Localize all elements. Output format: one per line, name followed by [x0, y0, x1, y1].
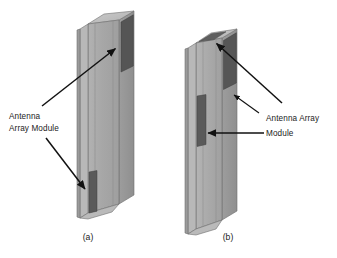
diagram-a-antenna-patch-bottom — [89, 171, 97, 213]
figure-canvas: (a) Antenna Array Module — [0, 0, 337, 258]
caption-b: (b) — [223, 232, 234, 242]
left-label-line-2: Array Module — [9, 124, 59, 133]
caption-a: (a) — [83, 232, 94, 242]
right-label-line-1: Antenna Array — [266, 114, 320, 123]
diagram-b-left-outer-edge — [185, 48, 188, 234]
diagram-b-antenna-patch-right-rail — [224, 33, 237, 90]
diagram-b-antenna-patch-front-mid — [197, 95, 206, 147]
diagram-b-left-rail — [188, 43, 196, 234]
left-label-line-1: Antenna — [9, 112, 41, 121]
diagram-a-antenna-patch-top — [121, 15, 133, 72]
diagram-a-left-outer-edge — [77, 29, 80, 218]
antenna-array-module-figure: (a) Antenna Array Module — [0, 0, 337, 258]
right-label-line-2: Module — [266, 129, 294, 138]
